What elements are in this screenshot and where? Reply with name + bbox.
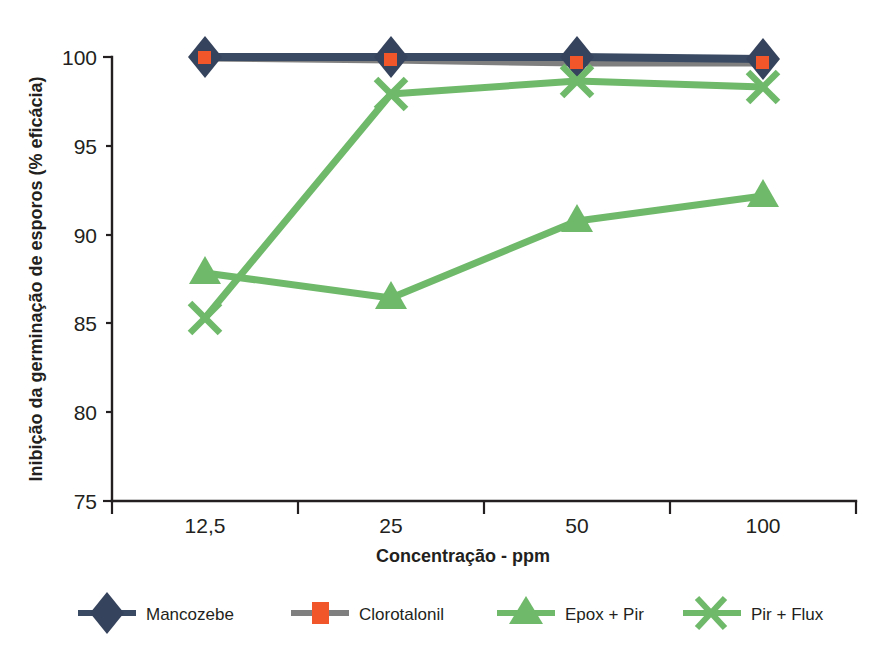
x-tick-label-12-5: 12,5 xyxy=(185,514,226,537)
clorotalonil-marker-12-5 xyxy=(198,51,211,64)
x-tick-label-50: 50 xyxy=(565,514,588,537)
y-axis-title: Inibição da germinação de esporos (% efi… xyxy=(26,76,46,481)
clorotalonil-marker-25 xyxy=(384,53,397,66)
x-tick-label-100: 100 xyxy=(745,514,780,537)
legend-label-epox-pir: Epox + Pir xyxy=(565,605,644,624)
legend-label-pir-flux: Pir + Flux xyxy=(751,605,824,624)
x-tick-label-25: 25 xyxy=(379,514,402,537)
square-icon xyxy=(312,602,329,624)
y-tick-label-100: 100 xyxy=(62,46,97,69)
y-tick-label-95: 95 xyxy=(74,135,97,158)
y-tick-label-90: 90 xyxy=(74,224,97,247)
mancozebe-line xyxy=(205,57,763,59)
legend-item-clorotalonil[interactable]: Clorotalonil xyxy=(291,602,444,624)
chart-figure: 100 95 90 85 80 75 12,5 25 50 100 Concen… xyxy=(0,0,889,651)
y-tick-label-85: 85 xyxy=(74,312,97,335)
x-axis-title: Concentração - ppm xyxy=(376,546,550,566)
y-tick-label-80: 80 xyxy=(74,401,97,424)
line-chart-canvas: 100 95 90 85 80 75 12,5 25 50 100 Concen… xyxy=(0,0,889,651)
clorotalonil-marker-50 xyxy=(570,56,583,69)
y-tick-label-75: 75 xyxy=(74,490,97,513)
legend-label-clorotalonil: Clorotalonil xyxy=(359,605,444,624)
legend-label-mancozebe: Mancozebe xyxy=(146,605,234,624)
clorotalonil-marker-100 xyxy=(756,56,769,69)
